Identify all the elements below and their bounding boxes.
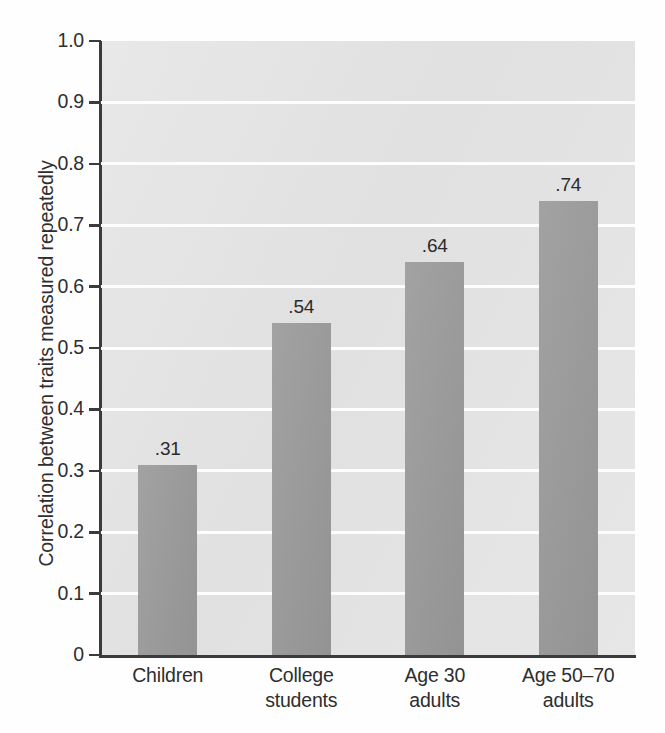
y-axis-tick-label: 0.5	[18, 336, 84, 359]
bar-value-label: .54	[251, 296, 351, 318]
y-axis-tick-mark	[89, 531, 101, 534]
x-axis-tick-label-line: students	[226, 688, 376, 713]
bar-value-label: .64	[385, 235, 485, 257]
y-axis-tick-label: 0.6	[18, 275, 84, 298]
x-axis-tick-label-line: adults	[493, 688, 643, 713]
x-axis-tick-label-line: Children	[93, 663, 243, 688]
y-axis-tick-label: 0.9	[18, 90, 84, 113]
bar-chart-figure: Correlation between traits measured repe…	[0, 0, 665, 733]
bar-value-label: .74	[518, 174, 618, 196]
y-axis-tick-label: 0	[18, 643, 84, 666]
y-axis-tick-label: 0.2	[18, 520, 84, 543]
y-axis-tick-mark	[89, 40, 101, 43]
y-axis-tick-label: 0.1	[18, 582, 84, 605]
x-axis-tick-label: Age 30adults	[360, 663, 510, 713]
x-axis-line	[99, 655, 636, 658]
y-axis-tick-label: 1.0	[18, 29, 84, 52]
bar	[138, 465, 197, 655]
y-axis-tick-labels: 1.00.90.80.70.60.50.40.30.20.10	[0, 0, 84, 733]
y-axis-tick-label: 0.8	[18, 152, 84, 175]
bar	[539, 201, 598, 655]
gridline	[101, 162, 635, 165]
x-axis-tick-label: Age 50–70adults	[493, 663, 643, 713]
y-axis-tick-mark	[89, 347, 101, 350]
x-axis-tick-label-line: College	[226, 663, 376, 688]
y-axis-tick-mark	[89, 224, 101, 227]
y-axis-tick-mark	[89, 163, 101, 166]
x-axis-tick-label: Collegestudents	[226, 663, 376, 713]
plot-area	[101, 41, 635, 655]
x-axis-tick-label-line: Age 50–70	[493, 663, 643, 688]
y-axis-tick-mark	[89, 654, 101, 657]
y-axis-tick-mark	[89, 408, 101, 411]
y-axis-tick-mark	[89, 285, 101, 288]
bar	[272, 323, 331, 655]
bar-value-label: .31	[118, 438, 218, 460]
y-axis-tick-label: 0.4	[18, 397, 84, 420]
x-axis-tick-label-line: Age 30	[360, 663, 510, 688]
y-axis-tick-mark	[89, 470, 101, 473]
x-axis-tick-label-line: adults	[360, 688, 510, 713]
y-axis-tick-label: 0.7	[18, 213, 84, 236]
x-axis-tick-label: Children	[93, 663, 243, 688]
bar	[405, 262, 464, 655]
y-axis-tick-mark	[89, 592, 101, 595]
y-axis-tick-mark	[89, 101, 101, 104]
y-axis-tick-label: 0.3	[18, 459, 84, 482]
gridline	[101, 101, 635, 104]
